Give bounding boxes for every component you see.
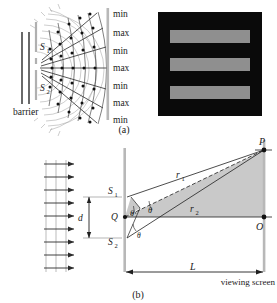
label-theta-2: θ [148, 205, 152, 215]
panel-a-screen-bar [107, 8, 110, 120]
screen-label-5: max [113, 98, 130, 108]
panel-b-slit-plate [123, 148, 126, 272]
label-theta-1: θ [130, 208, 134, 218]
label-viewing-screen: viewing screen [221, 277, 276, 287]
screen-label-4: min [113, 81, 128, 91]
label-s2-sub: 2 [115, 242, 118, 249]
label-theta-3: θ [137, 231, 141, 240]
panel-b-viewing-screen [263, 140, 266, 272]
label-r1: r [176, 170, 180, 180]
screen-label-0: min [113, 9, 128, 19]
slit-sub-1: 1 [47, 47, 50, 54]
label-r2-sub: 2 [196, 209, 199, 216]
caption-a: (a) [118, 124, 129, 136]
figure-young-double-slit: min max min max min max min S 1 S 2 barr… [0, 0, 277, 303]
screen-label-2: min [113, 46, 128, 56]
label-o: O [256, 221, 263, 232]
point-q-dot [123, 215, 127, 219]
caption-b: (b) [132, 289, 144, 301]
label-q: Q [111, 212, 118, 222]
slit-label-s1: S [40, 42, 45, 52]
label-r1-sub: 1 [182, 175, 185, 182]
label-p: P [258, 136, 265, 147]
label-l: L [189, 261, 196, 272]
label-r2: r [190, 204, 194, 214]
label-d: d [78, 213, 83, 223]
screen-label-3: max [113, 63, 130, 73]
screen-label-1: max [113, 28, 130, 38]
fringe-photograph [158, 12, 262, 116]
slit-sub-2: 2 [47, 88, 50, 95]
label-s2: S [108, 237, 113, 247]
label-s1-sub: 1 [115, 191, 118, 198]
barrier-label: barrier [13, 107, 39, 117]
slit-label-s2: S [40, 83, 45, 93]
point-o-dot [262, 215, 267, 220]
point-p-dot [262, 148, 267, 153]
label-s1: S [108, 186, 113, 196]
